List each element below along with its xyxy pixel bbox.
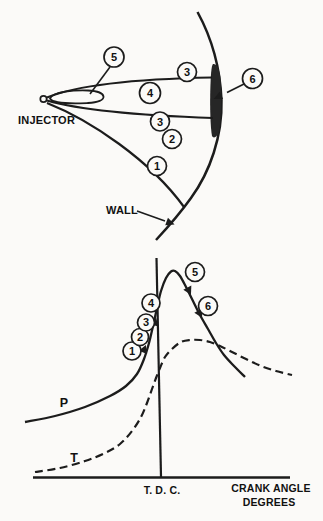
callout6-leader-line [227, 84, 244, 93]
svg-text:3: 3 [184, 66, 190, 78]
svg-text:4: 4 [148, 297, 155, 309]
callout-circle-4: 4 [140, 83, 161, 104]
svg-text:5: 5 [192, 266, 198, 278]
x-axis-label-line1: CRANK ANGLE [231, 482, 310, 494]
callout-circle-6: 6 [243, 69, 263, 89]
wall-deposit-blob [210, 64, 221, 137]
svg-text:6: 6 [249, 73, 255, 85]
combustion-figure: INJECTOR WALL 5 3 4 3 2 1 6 [0, 0, 323, 521]
spray-core-oval [50, 90, 104, 103]
figure-canvas: INJECTOR WALL 5 3 4 3 2 1 6 [0, 0, 323, 521]
svg-text:1: 1 [154, 160, 160, 172]
chart-callout-3: 3 [138, 314, 155, 331]
spray-wall-diagram: INJECTOR WALL 5 3 4 3 2 1 6 [18, 12, 263, 240]
chart-callout-6: 6 [199, 297, 218, 316]
tdc-label: T. D. C. [144, 484, 181, 496]
wall-label: WALL [106, 204, 138, 216]
svg-text:2: 2 [137, 331, 143, 343]
callout-circle-2: 2 [163, 130, 182, 149]
callout-circle-5: 5 [104, 47, 124, 67]
svg-text:3: 3 [143, 316, 149, 328]
injector-label: INJECTOR [18, 114, 75, 126]
callout-circle-3-lower: 3 [151, 112, 170, 131]
svg-text:3: 3 [157, 116, 163, 128]
chart-callout-5: 5 [186, 263, 205, 282]
pressure-label: P [60, 396, 68, 410]
chart-callout-4: 4 [142, 294, 160, 312]
wall-leader-line [137, 211, 165, 221]
injector-tip-icon [40, 96, 46, 102]
svg-text:5: 5 [111, 51, 117, 63]
callout5-leader-line [90, 67, 110, 94]
pressure-temperature-chart: P T T. D. C. CRANK ANGLE DEGREES 1 2 3 4… [25, 258, 311, 508]
svg-text:6: 6 [205, 300, 211, 312]
svg-text:4: 4 [147, 87, 154, 99]
callout-circle-3-upper: 3 [178, 63, 197, 82]
svg-text:1: 1 [129, 345, 135, 357]
svg-text:2: 2 [169, 133, 175, 145]
callout-circle-1: 1 [148, 157, 167, 176]
temperature-label: T [70, 451, 78, 465]
x-axis-label-line2: DEGREES [243, 496, 296, 508]
